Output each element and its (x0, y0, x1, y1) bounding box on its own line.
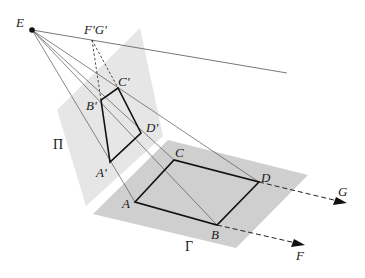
label-D: D (260, 170, 271, 185)
horizon-line (32, 30, 287, 73)
label-D-prime: D' (145, 120, 158, 135)
label-C-prime: C' (118, 74, 130, 89)
label-G: G (338, 184, 348, 199)
label-F: F (295, 248, 305, 263)
label-picture-plane: Π (53, 137, 63, 152)
label-C: C (175, 145, 184, 160)
arrow-F-icon (291, 239, 305, 247)
label-ground-plane: Γ (185, 239, 193, 254)
label-A-prime: A' (95, 165, 107, 180)
label-A: A (121, 196, 130, 211)
label-E: E (15, 15, 24, 30)
label-FG: F'G' (83, 22, 107, 37)
perspective-diagram: E F'G' C' B' D' A' C A D B G F Π Γ (0, 0, 365, 278)
label-B-prime: B' (86, 98, 97, 113)
label-B: B (211, 227, 219, 242)
eye-point (29, 27, 35, 33)
